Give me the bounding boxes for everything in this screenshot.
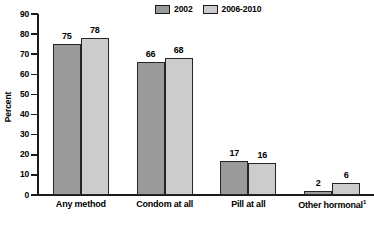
bars-layer: 75786668171626 [39,14,374,195]
y-tick-90 [31,13,38,15]
bar-value-label: 16 [242,151,282,160]
y-tick-80 [31,33,38,35]
y-tick-label-80: 80 [3,30,29,39]
y-tick-label-30: 30 [3,130,29,139]
y-tick-70 [31,53,38,55]
bar [165,58,193,195]
bar [53,44,81,195]
y-tick-20 [31,154,38,156]
legend-entry-2006-2010: 2006-2010 [203,5,262,14]
bar [137,62,165,195]
bar-group: 26 [290,14,374,195]
y-tick-label-10: 10 [3,170,29,179]
bar [81,38,109,195]
y-tick-50 [31,94,38,96]
y-tick-label-60: 60 [3,70,29,79]
bar-value-label: 68 [159,46,199,55]
y-tick-40 [31,114,38,116]
bar-chart: 2002 2006-2010 Percent 90807060504030201… [0,0,374,228]
x-category-label: Other hormonal1 [277,199,374,210]
legend-swatch-2006-2010 [203,5,218,14]
bar [220,161,248,195]
legend-label-2002: 2002 [174,5,193,14]
y-tick-0 [31,194,38,196]
bar [304,191,332,195]
plot-area: Percent 9080706050403020100 757866681716… [0,14,374,228]
bar-value-label: 6 [326,171,366,180]
y-tick-60 [31,74,38,76]
bar-group: 7578 [39,14,123,195]
bar [248,163,276,195]
legend-label-2006-2010: 2006-2010 [222,5,262,14]
y-tick-label-20: 20 [3,150,29,159]
bar-value-label: 78 [75,26,115,35]
y-tick-label-0: 0 [3,191,29,200]
y-tick-10 [31,174,38,176]
x-axis-category-labels: Any methodCondom at allPill at allOther … [39,199,374,219]
y-tick-label-90: 90 [3,10,29,19]
bar-group: 6668 [123,14,207,195]
footnote-marker: 1 [363,199,366,205]
legend-swatch-2002 [155,5,170,14]
y-tick-label-40: 40 [3,110,29,119]
y-tick-label-50: 50 [3,90,29,99]
bar [332,183,360,195]
y-tick-label-70: 70 [3,50,29,59]
bar-group: 1716 [207,14,291,195]
y-tick-30 [31,134,38,136]
legend-entry-2002: 2002 [155,5,193,14]
